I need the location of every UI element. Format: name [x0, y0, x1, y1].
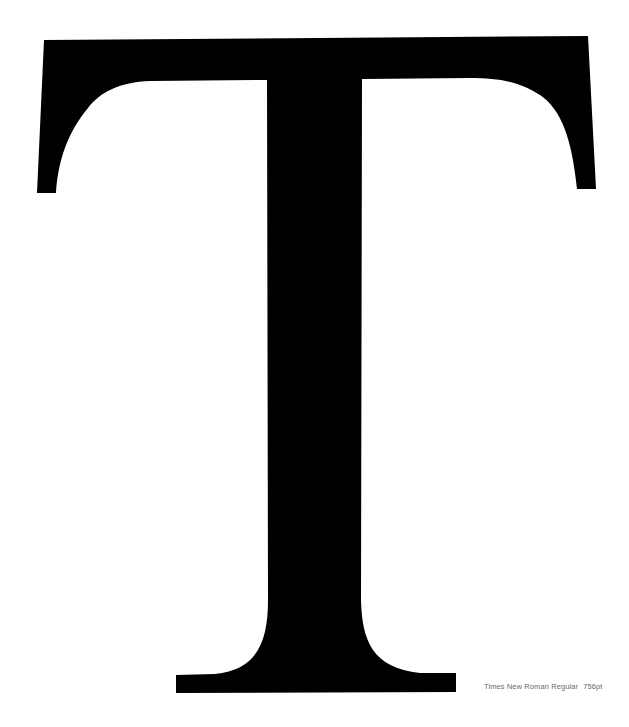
specimen-letter-t: [0, 0, 629, 727]
caption-point-size: 756pt: [583, 682, 602, 691]
caption-font-name: Times New Roman Regular: [484, 682, 578, 691]
glyph-t-shape: [37, 36, 596, 693]
specimen-caption: Times New Roman Regular756pt: [484, 682, 602, 691]
